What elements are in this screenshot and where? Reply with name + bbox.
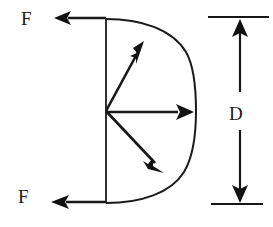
dimension-down-arrow [232,130,248,203]
force-label-bottom: F [18,186,29,207]
dimension-up-arrow [232,19,248,92]
lower-diagonal-force-vector [106,111,164,173]
force-label-top: F [21,8,32,29]
upper-diagonal-force-vector [106,41,144,111]
diameter-label: D [229,103,243,124]
figure-canvas: F F D [0,0,273,227]
horizontal-force-vector [106,104,194,120]
top-reaction-arrow [54,11,106,25]
bottom-reaction-arrow [51,195,106,209]
force-diagram-svg: F F D [0,0,273,227]
